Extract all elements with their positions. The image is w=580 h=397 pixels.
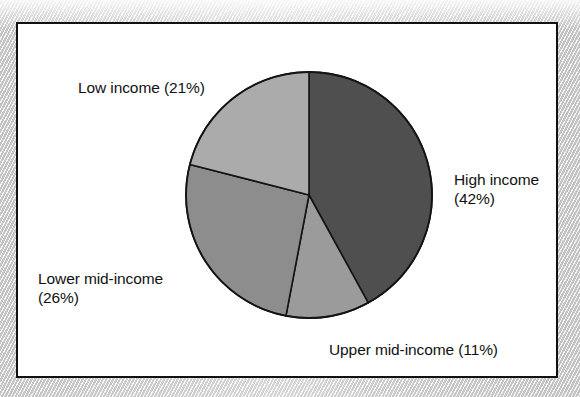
- pie-slices: [186, 72, 432, 318]
- slice-label-high-income: High income (42%): [454, 170, 539, 208]
- slice-label-upper-mid-income: Upper mid-income (11%): [329, 340, 498, 359]
- slice-label-low-income: Low income (21%): [78, 78, 205, 97]
- scanned-page-background: Low income (21%) High income (42%) Lower…: [0, 0, 580, 397]
- chart-frame: Low income (21%) High income (42%) Lower…: [16, 22, 558, 378]
- slice-label-lower-mid-income: Lower mid-income (26%): [38, 269, 163, 307]
